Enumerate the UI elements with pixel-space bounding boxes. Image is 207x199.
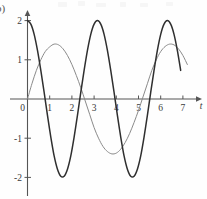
y-tick-label-neg2: -2 [14, 173, 22, 183]
axes-group [10, 10, 202, 196]
part-label: b) [0, 2, 5, 14]
x-tick-label-3: 3 [92, 103, 97, 113]
x-tick-label-2: 2 [70, 103, 75, 113]
x-tick-label-0: 0 [20, 103, 25, 113]
trig-graph: 01234567 21-1-2 t [0, 0, 207, 199]
y-axis-arrowhead [25, 10, 31, 16]
y-tick-label-2: 2 [17, 16, 22, 26]
y-tick-label-1: 1 [17, 55, 22, 65]
y-tick-label-neg1: -1 [14, 134, 22, 144]
figure-container: 01234567 21-1-2 t b) [0, 0, 207, 199]
x-tick-label-1: 1 [47, 103, 52, 113]
x-axis-label: t [200, 101, 203, 111]
x-tick-label-6: 6 [158, 103, 163, 113]
x-tick-labels: 01234567 [20, 103, 185, 113]
x-tick-label-7: 7 [181, 103, 186, 113]
